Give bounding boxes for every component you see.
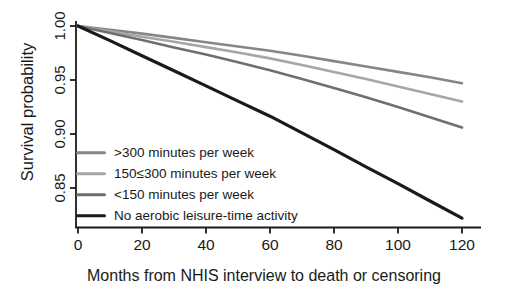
legend-line-swatch-over-300 [76,151,106,154]
legend-item-label: No aerobic leisure-time activity [114,209,298,223]
legend-item-label: 150≤300 minutes per week [114,167,276,181]
y-tick-label: 0.90 [52,119,67,148]
y-tick-label: 0.95 [52,65,67,94]
legend-item-over-300: >300 minutes per week [76,146,254,160]
x-axis-title: Months from NHIS interview to death or c… [87,268,441,284]
legend-line-swatch-under-150 [76,193,106,196]
x-tick-label: 20 [133,237,150,253]
x-tick-label: 80 [325,237,342,253]
y-axis-title: Survival probability [19,43,36,181]
legend-line-swatch-no-activity [76,214,106,217]
legend-item-under-150: <150 minutes per week [76,188,254,202]
x-tick-label: 0 [74,237,83,253]
x-tick-label: 100 [385,237,411,253]
legend-item-label: >300 minutes per week [114,146,254,160]
y-tick-label: 0.85 [52,173,67,202]
x-tick-label: 120 [449,237,475,253]
survival-curve-figure: Survival probability Months from NHIS in… [0,0,508,303]
y-tick-label: 1.00 [52,11,67,40]
legend-item-150-to-300: 150≤300 minutes per week [76,167,276,181]
x-tick-label: 60 [261,237,278,253]
legend-item-no-activity: No aerobic leisure-time activity [76,209,298,223]
curve-under-150 [78,26,462,128]
legend-item-label: <150 minutes per week [114,188,254,202]
legend-line-swatch-150-to-300 [76,172,106,175]
x-tick-label: 40 [197,237,214,253]
